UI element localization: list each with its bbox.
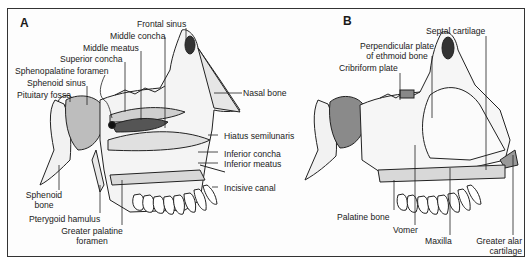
label-sphenopalatine-foramen: Sphenopalatine foramen	[15, 66, 109, 76]
label-greater-alar-cartilage-line1: Greater alar	[466, 236, 522, 246]
label-perpendicular-plate-line1: Perpendicular plate	[352, 41, 442, 51]
label-perpendicular-plate-line2: of ethmoid bone	[352, 51, 442, 61]
label-sphenoid-bone: Sphenoid bone	[22, 190, 66, 210]
label-superior-concha: Superior concha	[60, 54, 123, 64]
label-sphenoid-sinus: Sphenoid sinus	[27, 78, 86, 88]
label-middle-meatus: Middle meatus	[83, 43, 139, 53]
label-inferior-meatus: Inferior meatus	[224, 159, 281, 169]
label-frontal-sinus: Frontal sinus	[137, 19, 186, 29]
label-greater-palatine-foramen: Greater palatine foramen	[56, 226, 128, 246]
label-greater-alar-cartilage-line2: cartilage	[466, 246, 522, 256]
label-nasal-bone: Nasal bone	[243, 88, 286, 98]
label-perpendicular-plate: Perpendicular plate of ethmoid bone	[352, 41, 442, 61]
label-greater-palatine-foramen-line2: foramen	[56, 236, 128, 246]
label-sphenoid-bone-line2: bone	[22, 200, 66, 210]
label-inferior-concha: Inferior concha	[224, 149, 281, 159]
label-pterygoid-hamulus: Pterygoid hamulus	[29, 214, 100, 224]
label-sphenoid-bone-line1: Sphenoid	[22, 190, 66, 200]
label-middle-concha: Middle concha	[110, 31, 165, 41]
label-cribriform-plate: Cribriform plate	[339, 63, 398, 73]
label-greater-alar-cartilage: Greater alar cartilage	[466, 236, 522, 256]
label-pituitary-fossa: Pituitary fossa	[17, 90, 71, 100]
label-septal-cartilage: Septal cartilage	[426, 26, 485, 36]
panel-a-letter: A	[20, 16, 29, 30]
label-greater-palatine-foramen-line1: Greater palatine	[56, 226, 128, 236]
label-incisive-canal: Incisive canal	[224, 183, 276, 193]
label-vomer: Vomer	[393, 225, 418, 235]
label-maxilla: Maxilla	[425, 236, 452, 246]
panel-b-letter: B	[343, 14, 352, 28]
label-palatine-bone: Palatine bone	[337, 212, 390, 222]
label-hiatus-semilunaris: Hiatus semilunaris	[224, 131, 294, 141]
